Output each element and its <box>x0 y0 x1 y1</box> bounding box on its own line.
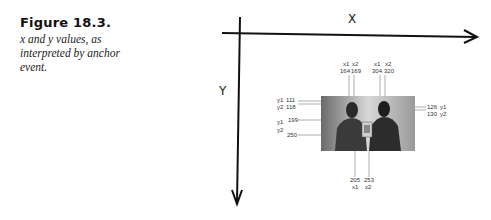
y-axis-label: Y <box>219 84 226 98</box>
bottom-x1-label: x1 <box>352 184 358 191</box>
right-y1-label: y1 <box>440 104 446 111</box>
left-y2-label-a: y2 <box>277 104 283 111</box>
x-axis-label: X <box>348 12 356 26</box>
bottom-x2-label: x2 <box>365 184 371 191</box>
left-y2-value-a: 118 <box>286 104 296 111</box>
left-y1-value-b: 199 <box>288 117 298 124</box>
anchor-photo <box>321 96 415 151</box>
top-left-x1-label: x1 <box>343 61 349 68</box>
two-people-photo-icon <box>321 96 415 151</box>
top-left-x2-label: x2 <box>352 61 358 68</box>
bottom-x1-value: 205 <box>350 177 360 184</box>
right-y2-label: y2 <box>440 111 446 118</box>
top-right-x2-value: 320 <box>384 68 394 75</box>
left-y1-label-a: y1 <box>277 97 283 104</box>
top-left-x1-value: 164 <box>340 68 350 75</box>
left-y2-label-b: y2 <box>277 127 283 134</box>
bottom-x2-value: 253 <box>364 177 374 184</box>
left-y1-label-b: y1 <box>277 119 283 126</box>
top-right-x2-label: x2 <box>385 61 391 68</box>
top-left-x2-value: 169 <box>351 68 361 75</box>
y-axis-line <box>237 17 240 203</box>
right-y2-value: 130 <box>427 111 437 118</box>
right-y1-value: 126 <box>427 104 437 111</box>
left-y2-value-b: 250 <box>287 132 297 139</box>
top-right-x1-label: x1 <box>374 61 380 68</box>
x-axis-line <box>222 33 476 37</box>
top-right-x1-value: 304 <box>372 68 382 75</box>
axes-diagram <box>0 0 491 220</box>
left-y1-value-a: 111 <box>286 97 295 104</box>
